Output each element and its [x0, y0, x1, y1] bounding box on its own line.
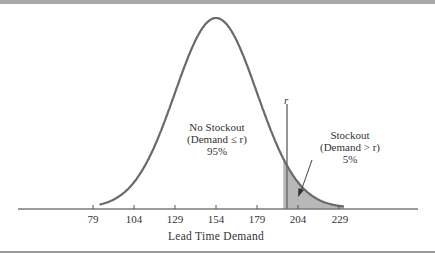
bottom-border: [0, 251, 435, 253]
no-stockout-annotation: No Stockout (Demand ≤ r) 95%: [162, 121, 272, 157]
stockout-shaded-area: [283, 159, 344, 210]
tick-label: 229: [332, 213, 349, 225]
tick-label: 154: [208, 213, 225, 225]
tick-label: 204: [290, 213, 307, 225]
r-label: r: [284, 94, 288, 106]
tick-label: 104: [126, 213, 143, 225]
stockout-condition: (Demand > r): [305, 141, 395, 153]
normal-distribution-curve: [100, 18, 344, 207]
tick-label: 129: [167, 213, 184, 225]
tick-label: 179: [249, 213, 266, 225]
no-stockout-title: No Stockout: [162, 121, 272, 133]
stockout-title: Stockout: [305, 129, 395, 141]
tick-label: 79: [88, 213, 99, 225]
no-stockout-percent: 95%: [162, 145, 272, 157]
x-axis-label: Lead Time Demand: [168, 230, 264, 242]
no-stockout-condition: (Demand ≤ r): [162, 133, 272, 145]
stockout-annotation: Stockout (Demand > r) 5%: [305, 129, 395, 165]
stockout-percent: 5%: [305, 153, 395, 165]
